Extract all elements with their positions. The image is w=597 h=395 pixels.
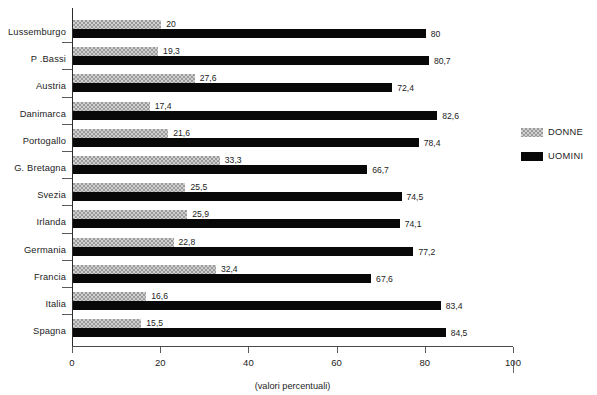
y-axis-tick (62, 69, 72, 70)
bar-donne (73, 129, 168, 138)
legend-item: DONNE (521, 127, 597, 138)
category-label: Lussemburgo (0, 27, 66, 37)
bar-chart: LussemburgoP .BassiAustriaDanimarcaPorto… (0, 0, 597, 395)
x-axis-tick (160, 347, 161, 353)
bar-group: 33,366,7 (73, 156, 514, 174)
bar-value-donne: 27,6 (200, 74, 217, 83)
x-axis-tick (248, 347, 249, 353)
bar-donne (73, 265, 216, 274)
donne-swatch (521, 128, 543, 137)
bar-donne (73, 74, 195, 83)
x-axis-tick (72, 347, 73, 353)
bar-value-uomini: 67,6 (376, 275, 393, 284)
bar-value-donne: 32,4 (221, 265, 238, 274)
bar-donne (73, 47, 158, 56)
y-axis-tick (62, 233, 72, 234)
bar-uomini (73, 192, 402, 201)
bar-value-uomini: 78,4 (424, 139, 441, 148)
x-axis-tick-label: 20 (155, 357, 166, 368)
category-label: P .Bassi (0, 54, 66, 64)
bar-donne (73, 319, 141, 328)
x-axis-tick (425, 347, 426, 353)
y-axis-tick (62, 97, 72, 98)
category-label: Austria (0, 81, 66, 91)
plot-area: 208019,380,727,672,417,482,621,678,433,3… (72, 8, 513, 346)
bar-uomini (73, 219, 400, 228)
uomini-swatch (521, 152, 543, 161)
x-axis-tick (337, 347, 338, 353)
bar-value-uomini: 66,7 (372, 166, 389, 175)
bar-value-donne: 25,5 (190, 183, 207, 192)
x-axis-end-tick (513, 360, 514, 373)
chart-legend: DONNEUOMINI (521, 127, 597, 175)
bar-group: 27,672,4 (73, 74, 514, 92)
bar-uomini (73, 56, 429, 65)
y-axis-tick (62, 314, 72, 315)
bar-donne (73, 292, 146, 301)
x-axis-tick-label: 0 (69, 357, 74, 368)
bar-value-uomini: 84,5 (451, 329, 468, 338)
bar-group: 17,482,6 (73, 102, 514, 120)
x-axis-tick-label: 40 (243, 357, 254, 368)
bar-value-donne: 16,6 (151, 292, 168, 301)
category-label: Danimarca (0, 109, 66, 119)
legend-item: UOMINI (521, 151, 597, 162)
bar-group: 21,678,4 (73, 129, 514, 147)
bar-uomini (73, 29, 426, 38)
bar-donne (73, 20, 161, 29)
bar-value-uomini: 74,5 (407, 193, 424, 202)
bar-donne (73, 183, 185, 192)
bar-value-donne: 25,9 (192, 210, 209, 219)
bar-group: 15,584,5 (73, 319, 514, 337)
bar-value-donne: 20 (166, 20, 176, 29)
bar-uomini (73, 301, 441, 310)
x-axis-line (72, 346, 513, 347)
category-label: Spagna (0, 326, 66, 336)
bar-donne (73, 210, 187, 219)
legend-label: UOMINI (548, 151, 583, 161)
x-axis-tick-label: 80 (420, 357, 431, 368)
bar-value-uomini: 80 (431, 30, 441, 39)
bar-group: 2080 (73, 20, 514, 38)
bar-value-uomini: 80,7 (434, 57, 451, 66)
bar-donne (73, 238, 174, 247)
x-axis-tick-label: 60 (331, 357, 342, 368)
x-axis-title: (valori percentuali) (72, 381, 513, 391)
category-label: Svezia (0, 190, 66, 200)
bar-value-donne: 19,3 (163, 47, 180, 56)
bar-value-donne: 15,5 (146, 319, 163, 328)
category-label: G. Bretagna (0, 163, 66, 173)
bar-value-donne: 17,4 (155, 102, 172, 111)
y-axis-tick (62, 205, 72, 206)
bar-group: 16,683,4 (73, 292, 514, 310)
bar-donne (73, 156, 220, 165)
bar-value-uomini: 72,4 (397, 84, 414, 93)
bar-value-donne: 33,3 (225, 156, 242, 165)
y-axis-tick (62, 151, 72, 152)
bar-donne (73, 102, 150, 111)
y-axis-tick (62, 42, 72, 43)
bar-value-uomini: 82,6 (442, 112, 459, 121)
category-label: Portogallo (0, 136, 66, 146)
category-label: Germania (0, 245, 66, 255)
legend-label: DONNE (548, 127, 583, 137)
bar-value-uomini: 77,2 (418, 248, 435, 257)
bar-uomini (73, 274, 371, 283)
bar-uomini (73, 165, 367, 174)
bar-value-uomini: 74,1 (405, 220, 422, 229)
category-label: Irlanda (0, 217, 66, 227)
bar-uomini (73, 138, 419, 147)
bar-value-donne: 21,6 (173, 129, 190, 138)
y-axis-tick (62, 260, 72, 261)
y-axis-tick (62, 287, 72, 288)
y-axis-tick (62, 124, 72, 125)
bar-value-uomini: 83,4 (446, 302, 463, 311)
bar-uomini (73, 247, 413, 256)
bar-group: 25,574,5 (73, 183, 514, 201)
bar-group: 32,467,6 (73, 265, 514, 283)
category-label: Italia (0, 299, 66, 309)
x-axis-tick (513, 347, 514, 353)
bar-group: 25,974,1 (73, 210, 514, 228)
bar-group: 22,877,2 (73, 238, 514, 256)
bar-value-donne: 22,8 (179, 238, 196, 247)
